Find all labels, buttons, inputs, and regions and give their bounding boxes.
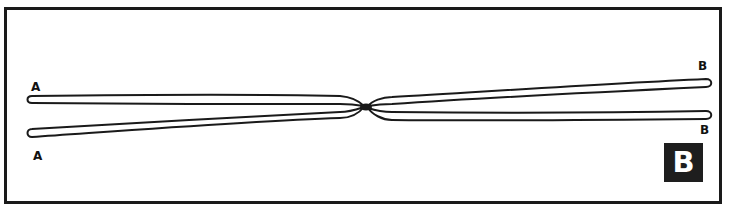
arm-label-left-top: A (31, 80, 40, 94)
arm-label-right-bottom: B (700, 123, 709, 137)
chromatid-arm-right-top (368, 79, 711, 106)
chromatid-arm-left-bottom (28, 107, 365, 137)
arm-label-right-top: B (698, 59, 707, 73)
chromosome-diagram (0, 0, 738, 213)
chromatid-arm-right-bottom (368, 108, 711, 120)
panel-label-badge: B (664, 143, 703, 182)
centromere (360, 104, 372, 111)
arm-label-left-bottom: A (33, 149, 42, 163)
chromatid-arm-left-top (28, 95, 365, 106)
